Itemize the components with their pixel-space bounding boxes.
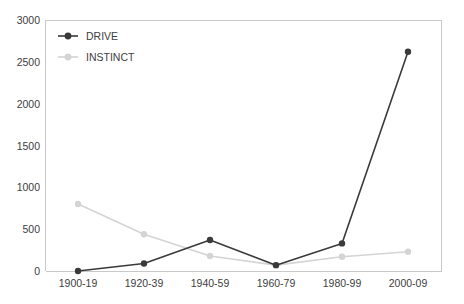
x-axis-tick-labels: 1900-19 1920-39 1940-59 1960-79 1980-99 … xyxy=(59,277,428,289)
chart-canvas: 3000 2500 2000 1500 1000 500 0 1900-19 1… xyxy=(0,0,464,304)
y-tick-2000: 2000 xyxy=(17,98,41,110)
x-tick-2000-09: 2000-09 xyxy=(389,277,428,289)
legend-marker-instinct xyxy=(65,54,72,61)
datapoint-instinct-1900-19 xyxy=(75,201,81,207)
datapoint-drive-1900-19 xyxy=(75,268,81,274)
datapoint-instinct-2000-09 xyxy=(405,249,411,255)
y-tick-1000: 1000 xyxy=(17,181,41,193)
x-tick-1960-79: 1960-79 xyxy=(257,277,296,289)
datapoint-instinct-1940-59 xyxy=(207,253,213,259)
x-tick-1980-99: 1980-99 xyxy=(323,277,362,289)
y-axis-tick-labels: 3000 2500 2000 1500 1000 500 0 xyxy=(17,14,41,277)
datapoint-drive-1960-79 xyxy=(273,262,279,268)
datapoint-drive-1940-59 xyxy=(207,237,213,243)
y-tick-2500: 2500 xyxy=(17,56,41,68)
y-tick-3000: 3000 xyxy=(17,14,41,26)
legend-item-instinct: INSTINCT xyxy=(58,51,135,63)
legend-item-drive: DRIVE xyxy=(58,30,118,42)
y-tick-1500: 1500 xyxy=(17,140,41,152)
legend-label-drive: DRIVE xyxy=(86,30,118,42)
series-line-drive xyxy=(78,52,408,271)
line-chart: 3000 2500 2000 1500 1000 500 0 1900-19 1… xyxy=(0,0,464,304)
datapoint-drive-1920-39 xyxy=(141,260,147,266)
legend-marker-drive xyxy=(65,33,72,40)
series-instinct xyxy=(75,201,411,268)
x-tick-1900-19: 1900-19 xyxy=(59,277,98,289)
x-tick-1940-59: 1940-59 xyxy=(191,277,230,289)
data-series-layer xyxy=(75,49,411,275)
series-drive xyxy=(75,49,411,275)
legend-label-instinct: INSTINCT xyxy=(86,51,135,63)
y-tick-0: 0 xyxy=(34,265,40,277)
series-line-instinct xyxy=(78,204,408,265)
x-tick-1920-39: 1920-39 xyxy=(125,277,164,289)
datapoint-drive-1980-99 xyxy=(339,240,345,246)
chart-legend: DRIVE INSTINCT xyxy=(58,30,135,63)
datapoint-drive-2000-09 xyxy=(405,49,411,55)
datapoint-instinct-1920-39 xyxy=(141,231,147,237)
datapoint-instinct-1980-99 xyxy=(339,254,345,260)
y-tick-500: 500 xyxy=(22,223,40,235)
